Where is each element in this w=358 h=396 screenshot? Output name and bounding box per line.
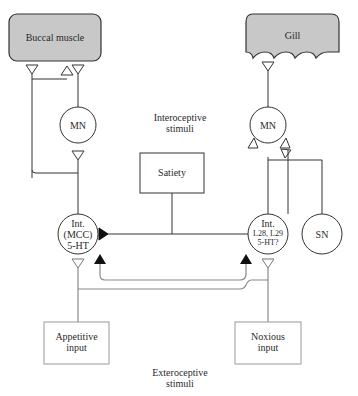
noxious-input-label: Noxious input [235, 331, 301, 353]
mcc-output-synapse [72, 259, 84, 268]
exteroceptive-label: Exteroceptive stimuli [130, 367, 230, 389]
l28-label: Int. L28, L29 5-HT? [248, 218, 288, 247]
gill-label: Gill [246, 30, 339, 41]
sn-label: SN [304, 229, 340, 240]
mcc-to-l28-synapse [240, 254, 252, 264]
satiety-wiring [108, 193, 264, 234]
l28-output-synapse [262, 259, 274, 268]
interoceptive-label: Interoceptive stimuli [130, 112, 230, 134]
left-mn-wiring [26, 65, 96, 215]
left-mn-label: MN [60, 120, 96, 131]
l28-to-mcc-synapse [94, 254, 106, 264]
mcc-label: Int. (MCC) 5-HT [58, 218, 98, 251]
mutual-inhibition-wiring [78, 262, 268, 330]
satiety-to-mcc-synapse [99, 228, 108, 240]
appetitive-input-label: Appetitive input [44, 331, 109, 353]
satiety-label: Satiety [140, 167, 204, 178]
right-mn-label: MN [250, 120, 286, 131]
buccal-muscle-label: Buccal muscle [9, 32, 101, 43]
right-mn-wiring [248, 62, 291, 214]
